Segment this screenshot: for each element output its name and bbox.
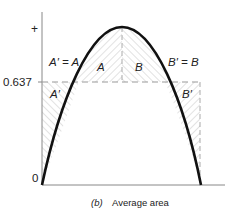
y-label-plus: + [31,22,38,36]
average-area-diagram: + 0.637 0 A′ = A A B B′ = B A′ B′ (b) Av… [0,0,235,216]
region-a-prime [42,82,79,185]
label-b-prime: B′ [182,88,193,100]
caption-part: (b) [91,197,103,208]
label-b-eq: B′ = B [168,56,199,68]
y-label-0637: 0.637 [3,76,32,88]
caption-text: Average area [112,197,170,208]
y-label-zero: 0 [32,172,38,184]
label-a: A [96,61,105,73]
label-b: B [135,61,143,73]
label-a-prime: A′ [49,88,61,100]
label-a-eq: A′ = A [48,56,80,68]
